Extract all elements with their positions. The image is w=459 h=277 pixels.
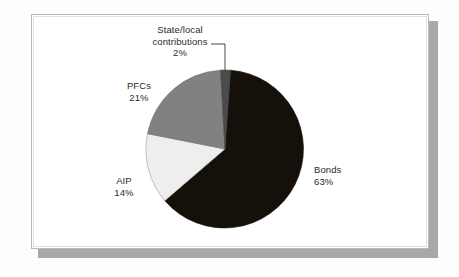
pie-label-pfcs: PFCs 21% (112, 80, 166, 103)
pie-label-pfcs-text: PFCs (127, 80, 151, 91)
pie-label-state-local-line1: State/local (157, 24, 202, 35)
pie-label-pfcs-value: 21% (112, 92, 166, 104)
pie-label-bonds-text: Bonds (314, 164, 341, 175)
pie-label-state-local-line2: contributions (152, 36, 207, 47)
pie-label-aip-text: AIP (116, 175, 132, 186)
pie-label-aip: AIP 14% (100, 175, 148, 198)
pie-label-bonds-value: 63% (314, 176, 374, 188)
pie-label-aip-value: 14% (100, 187, 148, 199)
figure-root: State/local contributions 2% PFCs 21% AI… (0, 0, 459, 277)
pie-label-state-local: State/local contributions 2% (128, 24, 232, 59)
pie-label-bonds: Bonds 63% (314, 164, 374, 187)
pie-label-state-local-value: 2% (128, 47, 232, 59)
